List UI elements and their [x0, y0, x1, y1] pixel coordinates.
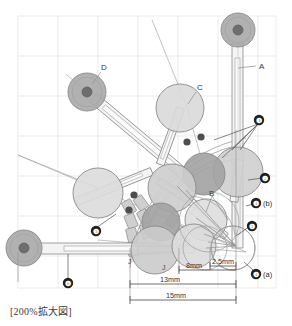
callout-5-num: ❺ — [93, 228, 99, 235]
label-A: A — [259, 62, 265, 71]
dim-label-13: 13mm — [160, 275, 180, 284]
label-J1: J — [128, 258, 132, 265]
callout-1-num: ❶ — [249, 223, 255, 230]
callout-4a[interactable]: ❹ (a) — [251, 269, 273, 279]
callout-4a-suffix: (a) — [263, 270, 273, 279]
linkage-arm-A — [232, 44, 243, 248]
figure-root: A C D B J J ❸ ❷ ❹ (b) ❶ ❹ (a) — [0, 0, 292, 326]
callout-2[interactable]: ❷ — [260, 173, 270, 183]
dim-label-8: 8mm — [186, 261, 202, 270]
hub-core-pivot-6-hub — [19, 243, 29, 253]
sphere-sphere-5 — [73, 168, 123, 218]
label-C: C — [197, 83, 203, 92]
ref-dot-1 — [183, 138, 190, 145]
ref-dot-2 — [197, 133, 204, 140]
dim-13 — [130, 280, 236, 288]
callout-6-num: ❻ — [65, 280, 71, 287]
callout-2-num: ❷ — [262, 175, 268, 182]
callout-1[interactable]: ❶ — [247, 221, 257, 231]
callout-4b[interactable]: ❹ (b) — [251, 198, 273, 208]
sphere-sphere-low-l — [131, 226, 179, 274]
callout-3-num: ❸ — [256, 117, 262, 124]
drawing-layer: A C D B J J ❸ ❷ ❹ (b) ❶ ❹ (a) — [0, 0, 292, 326]
hub-core-pivot-A-hub — [233, 25, 243, 35]
callout-4b-num: ❹ — [253, 200, 259, 207]
label-J2: J — [162, 264, 166, 271]
ref-dot-4 — [125, 206, 132, 213]
label-D: D — [101, 63, 107, 72]
callout-4b-suffix: (b) — [263, 199, 273, 208]
callout-5[interactable]: ❺ — [91, 226, 101, 236]
callout-6[interactable]: ❻ — [63, 278, 73, 288]
ref-dot-3 — [130, 191, 137, 198]
figure-caption: [200%拡大図] — [10, 303, 72, 318]
callout-3[interactable]: ❸ — [254, 115, 264, 125]
callout-4a-num: ❹ — [253, 271, 259, 278]
hub-core-pivot-D-hub — [82, 87, 92, 97]
label-B: B — [209, 189, 214, 198]
dim-label-2p5: 2.5mm — [212, 257, 234, 266]
dim-label-15: 15mm — [166, 291, 186, 300]
